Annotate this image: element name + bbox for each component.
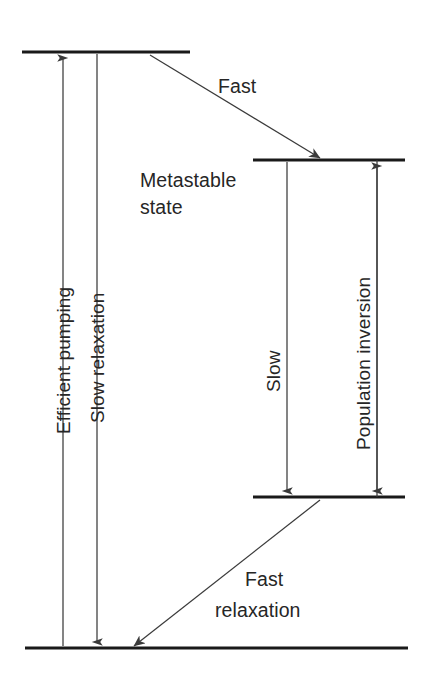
diagram-canvas: Metastable state Fast Fast relaxation Ef… [0, 0, 431, 691]
label-metastable-line2: state [140, 196, 183, 218]
label-efficient-pumping: Efficient pumping [53, 287, 74, 434]
label-metastable-line1: Metastable [140, 169, 236, 191]
label-fast: Fast [218, 75, 257, 97]
label-fast-relaxation-line2: relaxation [215, 599, 301, 621]
label-fast-relaxation-line1: Fast [245, 568, 284, 590]
fast-relaxation-arrow [134, 500, 320, 646]
energy-level-diagram: Metastable state Fast Fast relaxation Ef… [0, 0, 431, 691]
label-slow-relaxation: Slow relaxation [87, 293, 108, 423]
label-population-inversion: Population inversion [353, 277, 374, 450]
fast-decay-arrow [150, 55, 320, 158]
label-slow: Slow [263, 350, 284, 392]
